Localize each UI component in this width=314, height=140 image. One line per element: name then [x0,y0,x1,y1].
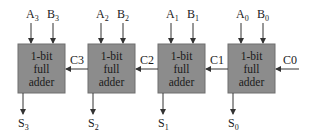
input-b0-label: B0 [257,7,269,23]
input-a2-label: A2 [96,7,109,23]
sum-s2-label: S2 [88,116,99,132]
full-adder-3: A3 B3 1-bit full adder S3 [18,7,65,132]
carry-c1-label: C1 [210,53,224,67]
adder-0-text-line2: full [244,63,260,75]
adder-3-text-line1: 1-bit [31,50,54,62]
input-b3-label: B3 [47,7,59,23]
carry-c3-label: C3 [70,53,84,67]
sum-s1-label: S1 [158,116,169,132]
adder-1-text-line3: adder [169,76,195,88]
full-adder-2: A2 B2 1-bit full adder S2 [88,7,135,132]
input-a1-label: A1 [166,7,179,23]
adder-2-text-line2: full [104,63,120,75]
adder-0-text-line1: 1-bit [241,50,264,62]
adder-0-text-line3: adder [239,76,265,88]
carry-c2-label: C2 [140,53,154,67]
adder-2-text-line1: 1-bit [101,50,124,62]
adder-3-text-line3: adder [29,76,55,88]
full-adder-0: A0 B0 1-bit full adder S0 [228,7,275,132]
adder-3-text-line2: full [34,63,50,75]
sum-s0-label: S0 [228,116,239,132]
ripple-carry-adder-diagram: A3 B3 1-bit full adder S3 A2 B2 1-bit fu… [0,0,314,140]
carry-c0-label: C0 [283,53,297,67]
input-b1-label: B1 [187,7,199,23]
full-adder-1: A1 B1 1-bit full adder S1 [158,7,205,132]
sum-s3-label: S3 [18,116,29,132]
input-a3-label: A3 [26,7,39,23]
adder-1-text-line2: full [174,63,190,75]
input-b2-label: B2 [117,7,129,23]
input-a0-label: A0 [236,7,249,23]
adder-2-text-line3: adder [99,76,125,88]
adder-1-text-line1: 1-bit [171,50,194,62]
